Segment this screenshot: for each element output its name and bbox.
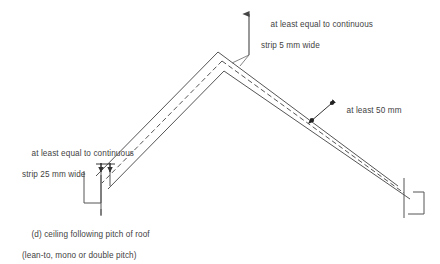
- figure-caption-line2: (lean-to, mono or double pitch): [22, 251, 150, 262]
- figure-caption: (d) ceiling following pitch of roof (lea…: [22, 219, 150, 264]
- right-fascia-bracket: [408, 192, 424, 214]
- annotation-eaves-strip: at least equal to continuous strip 25 mm…: [22, 138, 134, 202]
- roof-line-inner-right: [224, 71, 410, 199]
- roof-line-middle-right: [222, 61, 404, 193]
- annotation-eaves-strip-line1: at least equal to continuous: [32, 149, 135, 158]
- annotation-ridge-strip-line2: strip 5 mm wide: [261, 41, 373, 52]
- annotation-gap-50mm-line1: at least 50 mm: [347, 106, 402, 115]
- annotation-ridge-strip: at least equal to continuous strip 5 mm …: [261, 9, 373, 73]
- annotation-ridge-strip-line1: at least equal to continuous: [271, 20, 374, 29]
- figure-caption-line1: (d) ceiling following pitch of roof: [32, 230, 150, 239]
- annotation-eaves-strip-line2: strip 25 mm wide: [22, 170, 134, 181]
- annotation-gap-50mm: at least 50 mm: [337, 95, 402, 127]
- right-dimension-leader: [310, 101, 334, 122]
- right-eaves-detail: [404, 178, 424, 218]
- ridge-arrow-leader: [232, 14, 249, 66]
